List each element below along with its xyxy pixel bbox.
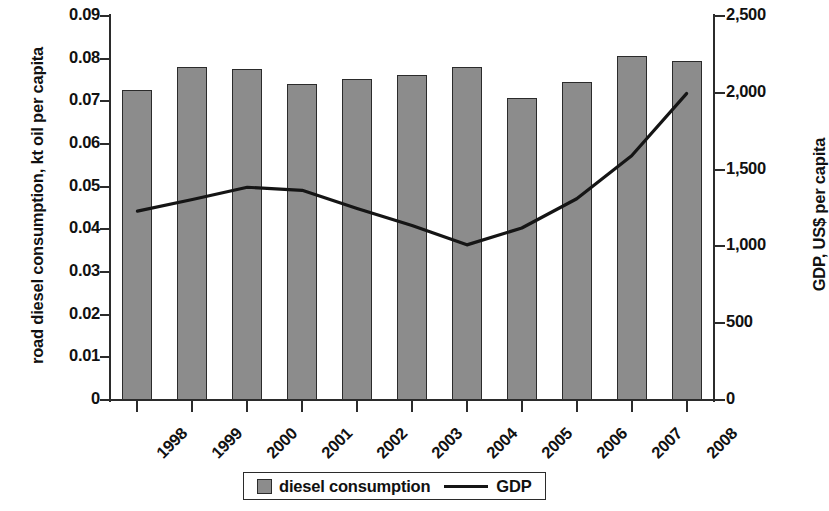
x-axis-tick-mark <box>466 401 468 412</box>
x-axis-tick-mark <box>411 401 413 412</box>
x-axis-tick-mark <box>356 401 358 412</box>
legend-item-gdp: GDP <box>430 477 531 496</box>
y-axis-left-tick-mark <box>100 399 110 401</box>
x-axis-tick-label: 2007 <box>647 424 686 463</box>
x-axis-tick-label: 2005 <box>537 424 576 463</box>
x-axis-tick-mark <box>576 401 578 412</box>
y-axis-left-tick-mark <box>100 143 110 145</box>
x-axis-tick-mark <box>631 401 633 412</box>
x-axis-tick-label: 2003 <box>428 424 467 463</box>
x-axis-tick-label: 2001 <box>318 424 357 463</box>
y-axis-left-tick-mark <box>100 15 110 17</box>
x-axis-tick-label: 2008 <box>702 424 741 463</box>
x-axis-tick-label: 2002 <box>373 424 412 463</box>
x-axis-tick-mark <box>191 401 193 412</box>
legend-line-swatch-icon <box>444 485 488 488</box>
y-axis-right-tick-mark <box>715 245 725 247</box>
x-axis-tick-label: 2006 <box>592 424 631 463</box>
x-axis-tick-mark <box>136 401 138 412</box>
x-axis-tick-label: 2000 <box>263 424 302 463</box>
y-axis-left-tick-mark <box>100 314 110 316</box>
x-axis-tick-label: 2004 <box>483 424 522 463</box>
x-axis-tick-mark <box>246 401 248 412</box>
y-axis-right-tick-mark <box>715 169 725 171</box>
y-axis-left-tick-mark <box>100 228 110 230</box>
legend-square-swatch-icon <box>257 479 272 494</box>
y-axis-right-tick-mark <box>715 15 725 17</box>
x-axis-tick-label: 1998 <box>153 424 192 463</box>
y-axis-right-tick-mark <box>715 322 725 324</box>
x-axis-tick-label: 1999 <box>208 424 247 463</box>
legend-label-gdp: GDP <box>496 477 531 496</box>
y-axis-left-tick-mark <box>100 271 110 273</box>
x-axis-tick-mark <box>686 401 688 412</box>
y-axis-right-tick-mark <box>715 399 725 401</box>
chart-legend: diesel consumption GDP <box>243 472 546 500</box>
y-axis-left-tick-mark <box>100 100 110 102</box>
legend-label-diesel-consumption: diesel consumption <box>279 477 430 496</box>
y-axis-left-tick-mark <box>100 58 110 60</box>
y-axis-left-tick-mark <box>100 186 110 188</box>
legend-item-diesel-consumption: diesel consumption <box>257 477 430 496</box>
x-axis-tick-mark <box>301 401 303 412</box>
y-axis-right-tick-mark <box>715 92 725 94</box>
y-axis-left-tick-mark <box>100 356 110 358</box>
x-axis-tick-mark <box>521 401 523 412</box>
